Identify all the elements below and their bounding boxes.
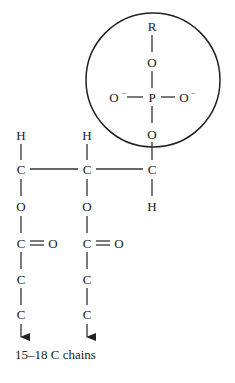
chain2-c2: C [83, 307, 92, 322]
atom-left-o: O [16, 199, 25, 214]
atom-middle-o: O [82, 199, 91, 214]
atom-middle-c: C [83, 162, 92, 177]
atom-left-c: C [17, 162, 26, 177]
chain1-c1: C [17, 272, 26, 287]
chain2-carbonyl-o: O [114, 236, 123, 251]
phospholipid-diagram: R O P O − O − O H C O C O C C H C O C O … [0, 0, 235, 383]
chain1-carbonyl-o: O [48, 236, 57, 251]
atom-o-left: O [109, 90, 118, 105]
chain2-c1: C [83, 272, 92, 287]
atom-p: P [148, 90, 155, 105]
atom-o-bottom: O [147, 127, 156, 142]
atom-right-c: C [148, 162, 157, 177]
charge-o-left: − [122, 89, 127, 98]
atom-r: R [148, 19, 157, 34]
atom-right-h: H [147, 199, 156, 214]
chain1-carbonyl-c: C [17, 236, 26, 251]
atom-o-right: O [179, 90, 188, 105]
charge-o-right: − [191, 89, 196, 98]
atom-middle-h: H [82, 128, 91, 143]
atom-o-top: O [147, 55, 156, 70]
chain-length-label: 15–18 C chains [15, 347, 96, 362]
atom-left-h: H [16, 128, 25, 143]
chain1-c2: C [17, 307, 26, 322]
chain2-carbonyl-c: C [83, 236, 92, 251]
